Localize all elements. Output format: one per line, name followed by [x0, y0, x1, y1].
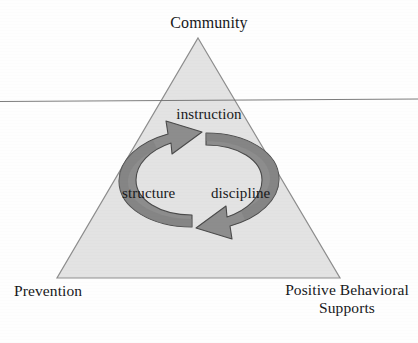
- triangle-apex-label: Community: [0, 14, 418, 32]
- triangle-bottom-right-label-line1: Positive Behavioral: [285, 281, 409, 298]
- diagram-page: Community Prevention Positive Behavioral…: [0, 0, 418, 343]
- cycle-left-label: structure: [122, 185, 175, 202]
- cycle-right-label: discipline: [211, 185, 270, 202]
- cycle-top-label: instruction: [0, 106, 418, 123]
- triangle-bottom-right-label-line2: Supports: [278, 299, 416, 317]
- triangle-shape: [57, 38, 340, 278]
- triangle-bottom-right-label: Positive Behavioral Supports: [278, 281, 416, 317]
- triangle-bottom-left-label: Prevention: [14, 282, 82, 300]
